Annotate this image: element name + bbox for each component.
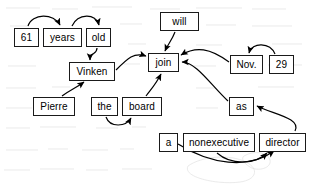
node-years[interactable]: years [43,28,82,47]
node-pierre[interactable]: Pierre [33,97,75,116]
node-nov[interactable]: Nov. [230,55,263,74]
edge-61-to-years [28,16,60,26]
edge-board-to-join [146,74,161,96]
node-a[interactable]: a [159,133,178,152]
node-vinken[interactable]: Vinken [69,62,115,81]
node-old[interactable]: old [86,28,111,47]
edge-as-to-join [182,62,228,101]
node-as[interactable]: as [229,97,254,116]
edge-director-to-as [257,106,296,131]
node-director[interactable]: director [259,133,306,152]
node-61[interactable]: 61 [14,28,39,47]
edge-pierre-to-vinken [62,82,84,96]
node-board[interactable]: board [122,97,162,116]
edge-vinken-to-join [116,55,146,70]
edge-nonexecutive-to-director [217,153,267,162]
node-join[interactable]: join [148,53,179,72]
node-will[interactable]: will [160,12,199,31]
node-the[interactable]: the [91,97,118,116]
node-nonexecutive[interactable]: nonexecutive [183,133,255,152]
dependency-parse-figure: 61 years old Vinken Pierre the board wil… [0,0,315,186]
edge-nov-to-join [181,50,229,62]
node-29[interactable]: 29 [269,55,294,74]
edge-will-to-join [165,32,175,51]
edge-years-to-old [72,16,99,26]
edge-the-to-board [106,117,131,125]
edge-29-to-nov [249,45,275,54]
edge-old-to-vinken [90,48,97,60]
